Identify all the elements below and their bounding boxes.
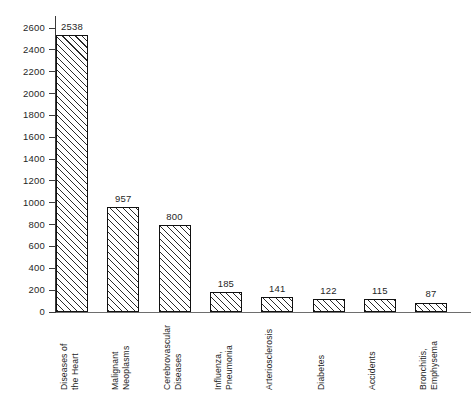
y-axis-tick — [49, 268, 56, 269]
category-label: Diabetes — [316, 355, 327, 390]
bar — [364, 299, 396, 312]
category-label-line: Arteriosclerosis — [264, 329, 274, 390]
y-axis-tick — [49, 180, 56, 181]
bar-value-label: 122 — [301, 286, 357, 296]
y-axis-tick-label: 1800 — [3, 110, 45, 120]
bar-value-label: 957 — [95, 194, 151, 204]
category-label: Arteriosclerosis — [264, 329, 275, 390]
bar — [415, 303, 447, 313]
y-axis-tick — [49, 202, 56, 203]
category-label-line: Cerebrovascular — [162, 325, 172, 390]
y-axis-tick-label: 1400 — [3, 154, 45, 164]
y-axis-tick — [49, 159, 56, 160]
bar — [210, 292, 242, 312]
category-label: Diseases ofthe Heart — [59, 343, 80, 390]
bar — [159, 225, 191, 312]
category-label-line: Neoplasms — [121, 346, 132, 390]
bar — [56, 35, 88, 312]
bar — [107, 207, 139, 312]
y-axis-tick — [49, 312, 56, 313]
category-label-line: Emphysema — [429, 341, 440, 390]
y-axis-tick — [49, 93, 56, 94]
y-axis-tick-label: 1000 — [3, 198, 45, 208]
y-axis-tick-label: 2000 — [3, 89, 45, 99]
y-axis-tick-label: 2200 — [3, 67, 45, 77]
y-axis-tick — [49, 137, 56, 138]
y-axis-tick-label: 200 — [3, 285, 45, 295]
bar-value-label: 2538 — [44, 22, 100, 32]
category-label: Accidents — [367, 351, 378, 390]
bar-value-label: 141 — [249, 284, 305, 294]
bar — [313, 299, 345, 312]
category-label: CerebrovascularDiseases — [162, 325, 183, 390]
bar — [261, 297, 293, 312]
category-label: Influenza,Pneumonia — [213, 345, 234, 390]
category-label: Bronchitis,Emphysema — [418, 341, 439, 390]
y-axis-tick-label: 1600 — [3, 132, 45, 142]
y-axis-tick — [49, 115, 56, 116]
category-label: MalignantNeoplasms — [110, 346, 131, 390]
category-label-line: Malignant — [110, 351, 120, 390]
category-label-line: Pneumonia — [223, 345, 234, 390]
y-axis-tick — [49, 224, 56, 225]
category-label-line: Diseases — [172, 325, 183, 390]
category-label-line: Influenza, — [213, 351, 223, 390]
y-axis-tick-label: 0 — [3, 307, 45, 317]
bar-value-label: 87 — [403, 289, 459, 299]
y-axis-tick-label: 400 — [3, 263, 45, 273]
bar-chart: 0200400600800100012001400160018002000220… — [0, 0, 475, 396]
category-label-line: Accidents — [367, 351, 377, 390]
bar-value-label: 115 — [352, 286, 408, 296]
y-axis-tick-label: 600 — [3, 241, 45, 251]
y-axis-tick-label: 800 — [3, 220, 45, 230]
y-axis-tick — [49, 290, 56, 291]
category-label-line: Diabetes — [316, 355, 326, 390]
bar-value-label: 185 — [198, 279, 254, 289]
category-label-line: Bronchitis, — [418, 348, 428, 390]
category-label-line: the Heart — [70, 343, 81, 390]
category-label-line: Diseases of — [59, 343, 69, 390]
y-axis-tick — [49, 71, 56, 72]
y-axis-tick — [49, 246, 56, 247]
x-axis-line — [55, 312, 471, 313]
y-axis-tick-label: 1200 — [3, 176, 45, 186]
bar-value-label: 800 — [147, 212, 203, 222]
y-axis-tick-label: 2400 — [3, 45, 45, 55]
y-axis-tick-label: 2600 — [3, 23, 45, 33]
y-axis-tick — [49, 49, 56, 50]
